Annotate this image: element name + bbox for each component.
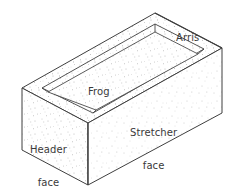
brick-diagram-figure: Arris Frog Stretcher face Header face	[0, 0, 233, 195]
brick-illustration	[0, 0, 233, 195]
